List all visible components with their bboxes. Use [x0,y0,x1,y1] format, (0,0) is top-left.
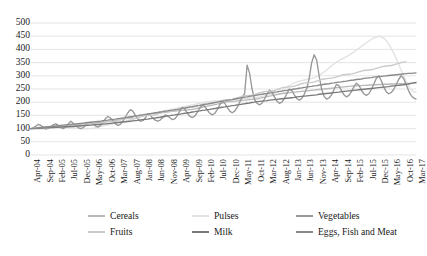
legend-item[interactable]: Cereals [88,211,192,221]
legend-label: Cereals [110,211,139,221]
x-tick-label: Aug-07 [134,159,142,184]
legend-swatch-line-icon [88,215,105,217]
x-tick-label: Mar-07 [121,159,129,184]
legend-label: Pulses [214,211,239,221]
legend-swatch-line-icon [88,231,105,233]
legend-item[interactable]: Vegetables [296,211,416,221]
legend-item[interactable]: Pulses [192,211,296,221]
x-tick-label: Jun-13 [307,159,315,182]
x-tick-label: Feb-15 [357,159,365,183]
x-tick-label: Jan-13 [295,159,303,181]
x-tick-label: Oct-11 [258,159,266,182]
legend-label: Milk [214,227,233,237]
x-tick-label: May-11 [245,159,253,185]
x-tick-label: Jun-08 [158,159,166,182]
x-tick-label: Sep-14 [345,159,353,183]
x-tick-label: Feb-10 [208,159,216,183]
legend-item[interactable]: Fruits [88,227,192,237]
x-tick-label: Jul-05 [71,159,79,180]
legend-label: Vegetables [318,211,360,221]
x-tick-label: Jan-08 [146,159,154,181]
legend-item[interactable]: Eggs, Fish and Meat [296,227,416,237]
x-tick-label: Jul-10 [220,159,228,180]
x-tick-label: May-06 [96,159,104,185]
x-tick-label: Dec-15 [382,159,390,183]
x-tick-label: Nov-08 [171,159,179,184]
x-tick-label: Oct-06 [109,159,117,182]
x-tick-label: Oct-16 [407,159,415,182]
legend-swatch-line-icon [192,231,209,233]
chart-legend: CerealsPulsesVegetablesFruitsMilkEggs, F… [88,208,388,240]
x-tick-label: Sep-09 [196,159,204,183]
legend-swatch-line-icon [192,215,209,217]
x-tick-label: Jul-15 [370,159,378,180]
x-tick-label: Apr-09 [183,159,191,183]
legend-label: Fruits [110,227,132,237]
x-tick-label: Nov-13 [320,159,328,184]
legend-swatch-line-icon [296,231,313,233]
x-tick-label: Apr-14 [332,159,340,183]
x-tick-label: Sep-04 [47,159,55,183]
legend-item[interactable]: Milk [192,227,296,237]
x-tick-label: Feb-05 [59,159,67,183]
x-tick-label: Dec-10 [233,159,241,183]
x-tick-label: Apr-04 [34,159,42,183]
x-tick-label: Aug-12 [283,159,291,184]
x-tick-label: Mar-17 [419,159,427,184]
legend-swatch-line-icon [296,215,313,217]
legend-label: Eggs, Fish and Meat [318,227,397,237]
x-tick-label: Dec-05 [84,159,92,183]
x-tick-label: Mar-12 [270,159,278,184]
x-tick-label: May-16 [394,159,402,185]
